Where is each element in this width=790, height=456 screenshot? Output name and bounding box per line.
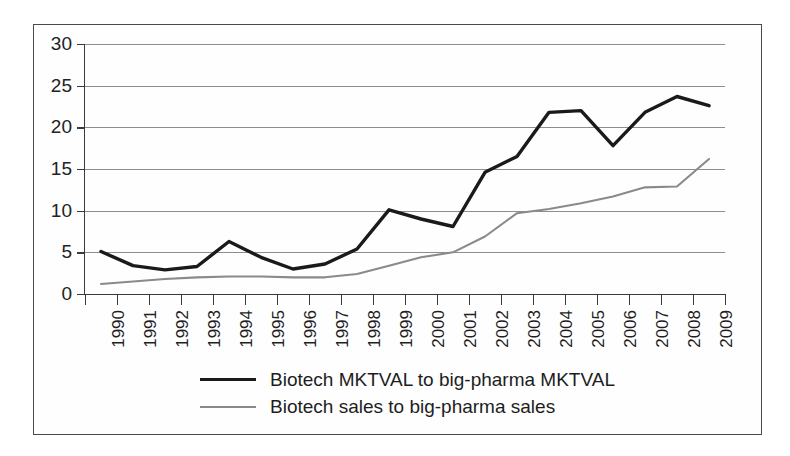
x-axis-tick-label: 2009 <box>717 310 737 348</box>
x-axis-tick <box>181 294 182 305</box>
x-axis-tick-label: 1990 <box>109 310 129 348</box>
y-axis-tick-label: 15 <box>51 159 72 178</box>
x-axis-tick-label: 2000 <box>429 310 449 348</box>
x-axis-tick <box>469 294 470 305</box>
y-axis-tick-label: 25 <box>51 76 72 95</box>
legend-line-swatch-gray <box>200 406 256 408</box>
x-axis-tick-label: 1997 <box>333 310 353 348</box>
x-axis-tick <box>213 294 214 305</box>
x-axis-tick-label: 1993 <box>205 310 225 348</box>
y-axis-tick-label: 30 <box>51 34 72 53</box>
gridline <box>85 211 725 212</box>
x-axis-tick-label: 2002 <box>493 310 513 348</box>
y-axis-tick <box>77 211 85 212</box>
y-axis-tick <box>77 294 85 295</box>
x-axis-tick <box>309 294 310 305</box>
x-axis-tick-label: 1991 <box>141 310 161 348</box>
gridline <box>85 86 725 87</box>
chart-figure: 051015202530 199019911992199319941995199… <box>0 0 790 456</box>
x-axis-tick <box>85 294 86 305</box>
x-axis-tick <box>405 294 406 305</box>
x-axis-tick-label: 2001 <box>461 310 481 348</box>
x-axis-tick <box>629 294 630 305</box>
x-axis-tick-label: 1999 <box>397 310 417 348</box>
y-axis-tick-label: 20 <box>51 117 72 136</box>
x-axis-tick <box>341 294 342 305</box>
x-axis-tick <box>533 294 534 305</box>
y-axis-tick-label: 0 <box>61 284 72 303</box>
x-axis-tick-label: 2008 <box>685 310 705 348</box>
x-axis-tick-label: 2007 <box>653 310 673 348</box>
legend-item-mktval: Biotech MKTVAL to big-pharma MKTVAL <box>200 366 620 393</box>
y-axis-tick-label: 5 <box>61 242 72 261</box>
y-axis-tick <box>77 169 85 170</box>
x-axis-tick-label: 1992 <box>173 310 193 348</box>
gridline <box>85 127 725 128</box>
y-axis-tick <box>77 44 85 45</box>
x-axis-tick <box>693 294 694 305</box>
x-axis-tick <box>277 294 278 305</box>
x-axis-tick-label: 1996 <box>301 310 321 348</box>
x-axis-tick <box>373 294 374 305</box>
y-axis-tick <box>77 252 85 253</box>
x-axis-tick-label: 2003 <box>525 310 545 348</box>
legend-label-mktval: Biotech MKTVAL to big-pharma MKTVAL <box>270 369 615 391</box>
x-axis-tick <box>117 294 118 305</box>
gridline <box>85 169 725 170</box>
gridline <box>85 252 725 253</box>
x-axis-tick-label: 2005 <box>589 310 609 348</box>
x-axis-tick-label: 1995 <box>269 310 289 348</box>
x-axis-tick-label: 1994 <box>237 310 257 348</box>
gridline <box>85 44 725 45</box>
x-axis-tick <box>245 294 246 305</box>
x-axis-tick <box>565 294 566 305</box>
legend-line-swatch-dark <box>200 378 256 381</box>
y-axis-tick <box>77 127 85 128</box>
legend-label-sales: Biotech sales to big-pharma sales <box>270 396 555 418</box>
plot-area <box>85 44 725 294</box>
x-axis-tick <box>725 294 726 305</box>
y-axis-tick <box>77 86 85 87</box>
x-axis-tick <box>501 294 502 305</box>
x-axis-tick <box>149 294 150 305</box>
x-axis-tick-label: 2004 <box>557 310 577 348</box>
legend-item-sales: Biotech sales to big-pharma sales <box>200 393 620 420</box>
x-axis-tick-label: 1998 <box>365 310 385 348</box>
x-axis-tick <box>661 294 662 305</box>
y-axis-tick-label: 10 <box>51 201 72 220</box>
x-axis-tick <box>437 294 438 305</box>
y-axis-labels: 051015202530 <box>0 0 72 456</box>
x-axis-tick <box>597 294 598 305</box>
chart-legend: Biotech MKTVAL to big-pharma MKTVAL Biot… <box>200 366 620 420</box>
x-axis-tick-label: 2006 <box>621 310 641 348</box>
